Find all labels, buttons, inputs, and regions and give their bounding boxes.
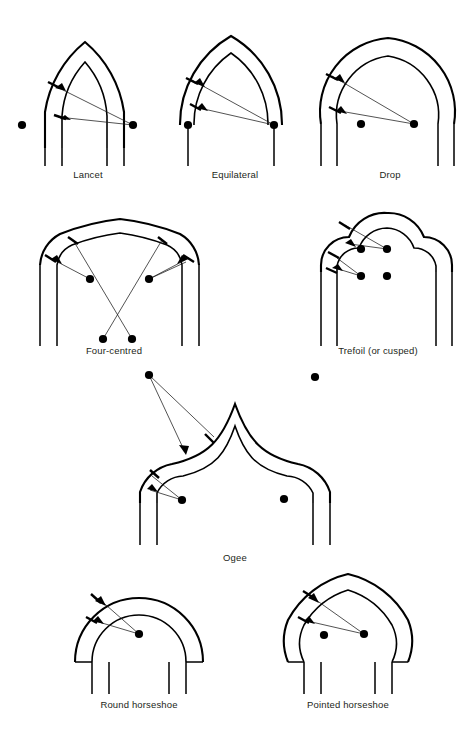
equilateral-radius-upper <box>192 80 274 125</box>
round-horseshoe-centre <box>135 630 143 638</box>
ogee-centre-low-left <box>178 496 186 504</box>
four-centred-radius-right-cross <box>73 240 132 339</box>
trefoil-tick-mid <box>328 252 339 258</box>
round-horseshoe-right-jamb <box>169 662 186 694</box>
four-centred-centre-upper-right <box>145 275 153 283</box>
ogee-centre-low-right <box>280 495 288 503</box>
round-horseshoe-left-jamb <box>92 662 109 694</box>
trefoil-right-jamb <box>436 272 452 346</box>
drop-centre-left <box>357 120 365 128</box>
lancet-centre-right <box>129 121 137 129</box>
lancet-radius-lower <box>58 117 133 125</box>
trefoil-centre-upper-left <box>357 245 365 253</box>
trefoil-centre-lower-left <box>357 272 365 280</box>
arch-round-horseshoe: Round horseshoe <box>75 594 203 710</box>
four-centred-caption: Four-centred <box>86 345 142 356</box>
ogee-radius-high-a <box>149 375 184 450</box>
ogee-left-jamb <box>140 503 157 545</box>
arch-drop: Drop <box>320 38 455 180</box>
round-horseshoe-caption: Round horseshoe <box>100 699 177 710</box>
pointed-horseshoe-centre-left <box>320 631 328 639</box>
four-centred-right-jamb <box>182 265 199 346</box>
ogee-radius-high-b <box>149 375 214 437</box>
pointed-horseshoe-outer-band <box>284 574 412 662</box>
trefoil-centre-lower-right <box>383 272 391 280</box>
equilateral-inner-band <box>194 53 268 125</box>
ogee-inner-band <box>157 426 313 503</box>
drop-inner-band <box>336 56 438 124</box>
trefoil-arrow-upper <box>345 239 356 247</box>
lancet-left-jamb <box>45 148 62 166</box>
ogee-outer-band <box>140 404 330 503</box>
ogee-centre-high-left <box>145 371 153 379</box>
ogee-radius-low-b <box>150 490 182 500</box>
lancet-arrow-upper <box>55 83 66 91</box>
drop-right-jamb <box>438 124 454 166</box>
drop-arrow-upper <box>334 74 345 83</box>
ogee-caption: Ogee <box>223 552 247 563</box>
equilateral-centre-left <box>184 121 192 129</box>
trefoil-caption: Trefoil (or cusped) <box>338 345 418 356</box>
arch-ogee: Ogee <box>140 371 330 563</box>
trefoil-tick-upper <box>339 222 350 229</box>
drop-left-jamb <box>321 124 337 166</box>
arch-equilateral: Equilateral <box>180 36 282 180</box>
arch-four-centred: Four-centred <box>40 219 199 356</box>
equilateral-caption: Equilateral <box>212 169 259 180</box>
pointed-horseshoe-caption: Pointed horseshoe <box>307 699 389 710</box>
trefoil-centre-upper-right <box>383 245 391 253</box>
ogee-right-jamb <box>313 503 330 545</box>
four-centred-centre-lower-right <box>128 335 136 343</box>
round-horseshoe-inner-band <box>92 615 186 662</box>
lancet-centre-left <box>18 121 26 129</box>
four-centred-centre-lower-left <box>99 335 107 343</box>
pointed-horseshoe-right-jamb <box>375 662 392 694</box>
four-centred-centre-upper-left <box>86 275 94 283</box>
ogee-centre-high-right <box>311 373 319 381</box>
pointed-horseshoe-left-jamb <box>304 662 321 694</box>
arch-pointed-horseshoe: Pointed horseshoe <box>284 574 412 710</box>
drop-caption: Drop <box>379 169 400 180</box>
lancet-right-jamb <box>107 148 124 166</box>
arch-trefoil: Trefoil (or cusped) <box>321 213 452 356</box>
trefoil-radius-lobe-a <box>337 258 361 276</box>
lancet-outer-band <box>45 42 124 148</box>
drop-centre-right <box>410 120 418 128</box>
lancet-inner-band <box>62 62 107 148</box>
four-centred-radius-right-upper <box>149 262 186 279</box>
four-centred-outer-band <box>40 219 199 265</box>
four-centred-left-jamb <box>40 265 57 346</box>
four-centred-inner-band <box>57 233 182 265</box>
equilateral-arrow-upper <box>194 78 205 87</box>
arch-lancet: Lancet <box>18 42 137 180</box>
four-centred-radius-left-cross <box>103 240 162 339</box>
arch-types-diagram: Lancet Equilateral <box>0 0 472 733</box>
pointed-horseshoe-centre-right <box>360 630 368 638</box>
four-centred-tick-crest-left <box>68 237 78 244</box>
equilateral-centre-right <box>270 121 278 129</box>
lancet-caption: Lancet <box>73 169 103 180</box>
drop-arrow-lower <box>336 106 347 114</box>
ogee-arrow-high <box>179 445 189 455</box>
trefoil-left-jamb <box>321 272 337 346</box>
diagram-canvas: Lancet Equilateral <box>0 0 472 733</box>
